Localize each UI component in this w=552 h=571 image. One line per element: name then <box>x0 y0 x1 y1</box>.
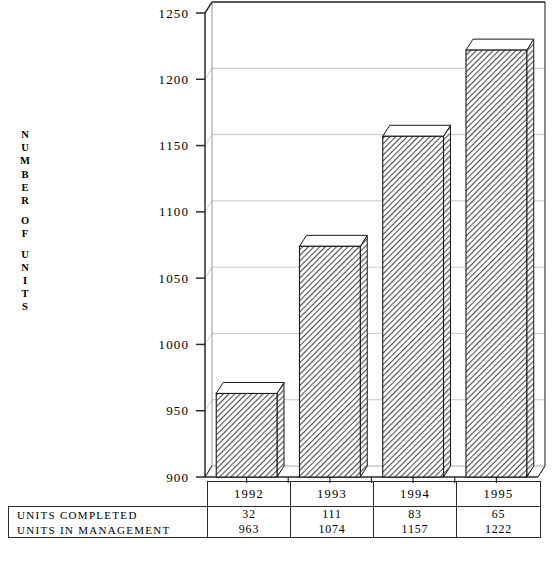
bar-side-face-1993 <box>360 235 367 477</box>
bar-top-face-1993 <box>299 235 367 246</box>
table-corner-cell <box>9 482 208 507</box>
bar-1993 <box>299 235 367 477</box>
cell-units-in-management-1995: 1222 <box>457 522 541 538</box>
gridline-depth-950 <box>205 400 212 411</box>
bar-chart: 125012001150110010501000950900 <box>0 0 552 500</box>
gridline-depth-1050 <box>205 267 212 278</box>
y-tick-label-1000: 1000 <box>159 337 189 352</box>
gridline-depth-1150 <box>205 135 212 146</box>
floor-left-depth-edge <box>205 466 212 477</box>
gridline-depth-1000 <box>205 333 212 344</box>
bar-1992 <box>216 382 284 477</box>
bar-top-face-1994 <box>383 125 451 136</box>
bar-front-face-1994 <box>383 136 444 477</box>
column-header-3: 1995 <box>457 482 541 507</box>
bar-top-face-1992 <box>216 382 284 393</box>
table-row: UNITS COMPLETED 32 111 83 65 <box>9 507 541 523</box>
table-header-row: 1992 1993 1994 1995 <box>9 482 541 507</box>
bar-1994 <box>383 125 451 477</box>
cell-units-completed-1995: 65 <box>457 507 541 523</box>
y-tick-label-1200: 1200 <box>159 72 189 87</box>
bar-front-face-1995 <box>466 50 527 477</box>
bar-side-face-1995 <box>527 39 534 477</box>
bar-1995 <box>466 39 534 477</box>
cell-units-in-management-1993: 1074 <box>291 522 374 538</box>
table-row: UNITS IN MANAGEMENT 963 1074 1157 1222 <box>9 522 541 538</box>
bar-front-face-1992 <box>216 393 277 477</box>
cell-units-completed-1993: 111 <box>291 507 374 523</box>
data-table: 1992 1993 1994 1995 UNITS COMPLETED 32 1… <box>8 481 541 538</box>
y-tick-label-1150: 1150 <box>159 138 189 153</box>
bar-side-face-1994 <box>444 125 451 477</box>
bar-top-face-1995 <box>466 39 534 50</box>
column-header-1: 1993 <box>291 482 374 507</box>
gridline-depth-1200 <box>205 68 212 79</box>
cell-units-completed-1994: 83 <box>374 507 457 523</box>
bar-side-face-1992 <box>277 382 284 477</box>
y-tick-label-1100: 1100 <box>159 204 189 219</box>
row-label-units-completed: UNITS COMPLETED <box>9 507 208 523</box>
cell-units-in-management-1994: 1157 <box>374 522 457 538</box>
y-axis-top-depth-line <box>205 2 212 13</box>
y-tick-label-1250: 1250 <box>159 6 189 21</box>
y-tick-label-950: 950 <box>166 403 189 418</box>
column-header-0: 1992 <box>208 482 291 507</box>
gridline-depth-1100 <box>205 201 212 212</box>
cell-units-completed-1992: 32 <box>208 507 291 523</box>
y-tick-label-1050: 1050 <box>159 271 189 286</box>
column-header-2: 1994 <box>374 482 457 507</box>
bar-front-face-1993 <box>299 246 360 477</box>
row-label-units-in-management: UNITS IN MANAGEMENT <box>9 522 208 538</box>
floor-right-depth-edge <box>538 466 545 477</box>
cell-units-in-management-1992: 963 <box>208 522 291 538</box>
